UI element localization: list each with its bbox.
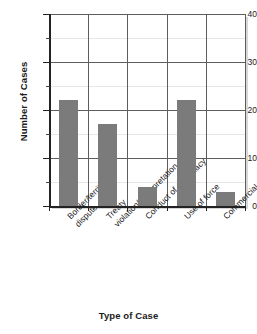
- x-tick: [206, 207, 207, 211]
- bar-chart-figure: Number of Cases 010203040 Border/territo…: [0, 0, 257, 334]
- y-tick-major: [43, 158, 50, 159]
- y-tick-major: [43, 110, 50, 111]
- y-tick-minor: [46, 134, 50, 135]
- bar: [177, 100, 196, 206]
- y-tick-minor: [46, 38, 50, 39]
- x-axis-line: [49, 206, 246, 208]
- x-tick: [49, 207, 50, 211]
- y-tick-minor: [46, 182, 50, 183]
- bar: [59, 100, 78, 206]
- x-axis-title: Type of Case: [0, 310, 257, 321]
- x-tick: [167, 207, 168, 211]
- bar: [98, 124, 117, 206]
- x-tick: [127, 207, 128, 211]
- bar: [138, 187, 157, 206]
- y-axis-title: Number of Cases: [18, 27, 29, 177]
- x-tick: [88, 207, 89, 211]
- bar: [216, 192, 235, 206]
- y-tick-major: [43, 62, 50, 63]
- x-tick: [245, 207, 246, 211]
- gridline-vertical: [245, 14, 246, 206]
- y-tick-major: [43, 14, 50, 15]
- y-tick-minor: [46, 86, 50, 87]
